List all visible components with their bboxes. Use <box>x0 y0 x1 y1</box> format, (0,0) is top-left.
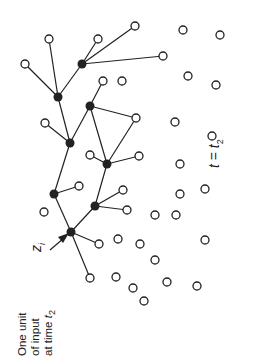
open-node <box>176 190 184 198</box>
edge <box>82 56 163 64</box>
open-node <box>131 22 139 30</box>
input-node-label: zi <box>28 243 47 252</box>
open-node <box>75 182 83 190</box>
edge <box>70 106 90 143</box>
open-node <box>172 211 180 219</box>
filled-node <box>86 102 95 111</box>
open-node <box>118 77 126 85</box>
open-node <box>123 206 131 214</box>
edge <box>95 206 127 210</box>
input-caption: One unit of input at time t2 <box>16 310 59 356</box>
open-node <box>163 278 171 286</box>
caption-line-2: of input <box>29 310 42 356</box>
open-node <box>176 160 184 168</box>
input-arrow <box>50 233 69 250</box>
open-node <box>40 208 48 216</box>
edge <box>54 143 70 194</box>
edge <box>107 118 136 164</box>
edge <box>58 97 70 143</box>
edge <box>45 123 70 143</box>
open-node <box>212 81 220 89</box>
open-node <box>86 274 94 282</box>
filled-node <box>78 60 87 69</box>
open-node <box>41 119 49 127</box>
open-node <box>201 236 209 244</box>
open-node <box>184 72 192 80</box>
time-label: t = t2 <box>206 139 225 168</box>
open-node <box>151 211 159 219</box>
open-node <box>171 118 179 126</box>
open-node <box>95 240 103 248</box>
open-node <box>193 282 201 290</box>
open-node <box>159 52 167 60</box>
open-node <box>119 186 127 194</box>
edge <box>71 206 95 232</box>
open-node <box>45 35 53 43</box>
open-node <box>112 273 120 281</box>
open-node <box>201 185 209 193</box>
open-node <box>94 35 102 43</box>
caption-line-1: One unit <box>16 310 29 356</box>
edge <box>54 194 71 232</box>
caption-line-3: at time t2 <box>42 310 59 356</box>
open-node <box>114 235 122 243</box>
edge <box>82 26 135 64</box>
open-node <box>132 114 140 122</box>
open-node <box>21 60 29 68</box>
open-node <box>179 26 187 34</box>
network-diagram <box>0 0 258 358</box>
open-node <box>86 151 94 159</box>
edge <box>58 64 82 97</box>
filled-node <box>67 228 76 237</box>
edge <box>90 106 136 118</box>
filled-node <box>91 202 100 211</box>
filled-node <box>103 160 112 169</box>
open-node <box>99 77 107 85</box>
filled-node <box>66 139 75 148</box>
open-node <box>136 240 144 248</box>
open-node <box>140 297 148 305</box>
open-node <box>216 31 224 39</box>
edge <box>49 39 58 97</box>
open-node <box>135 152 143 160</box>
filled-node <box>54 93 63 102</box>
filled-node <box>50 190 59 199</box>
open-node <box>129 284 137 292</box>
open-node <box>151 256 159 264</box>
open-nodes <box>21 22 224 305</box>
